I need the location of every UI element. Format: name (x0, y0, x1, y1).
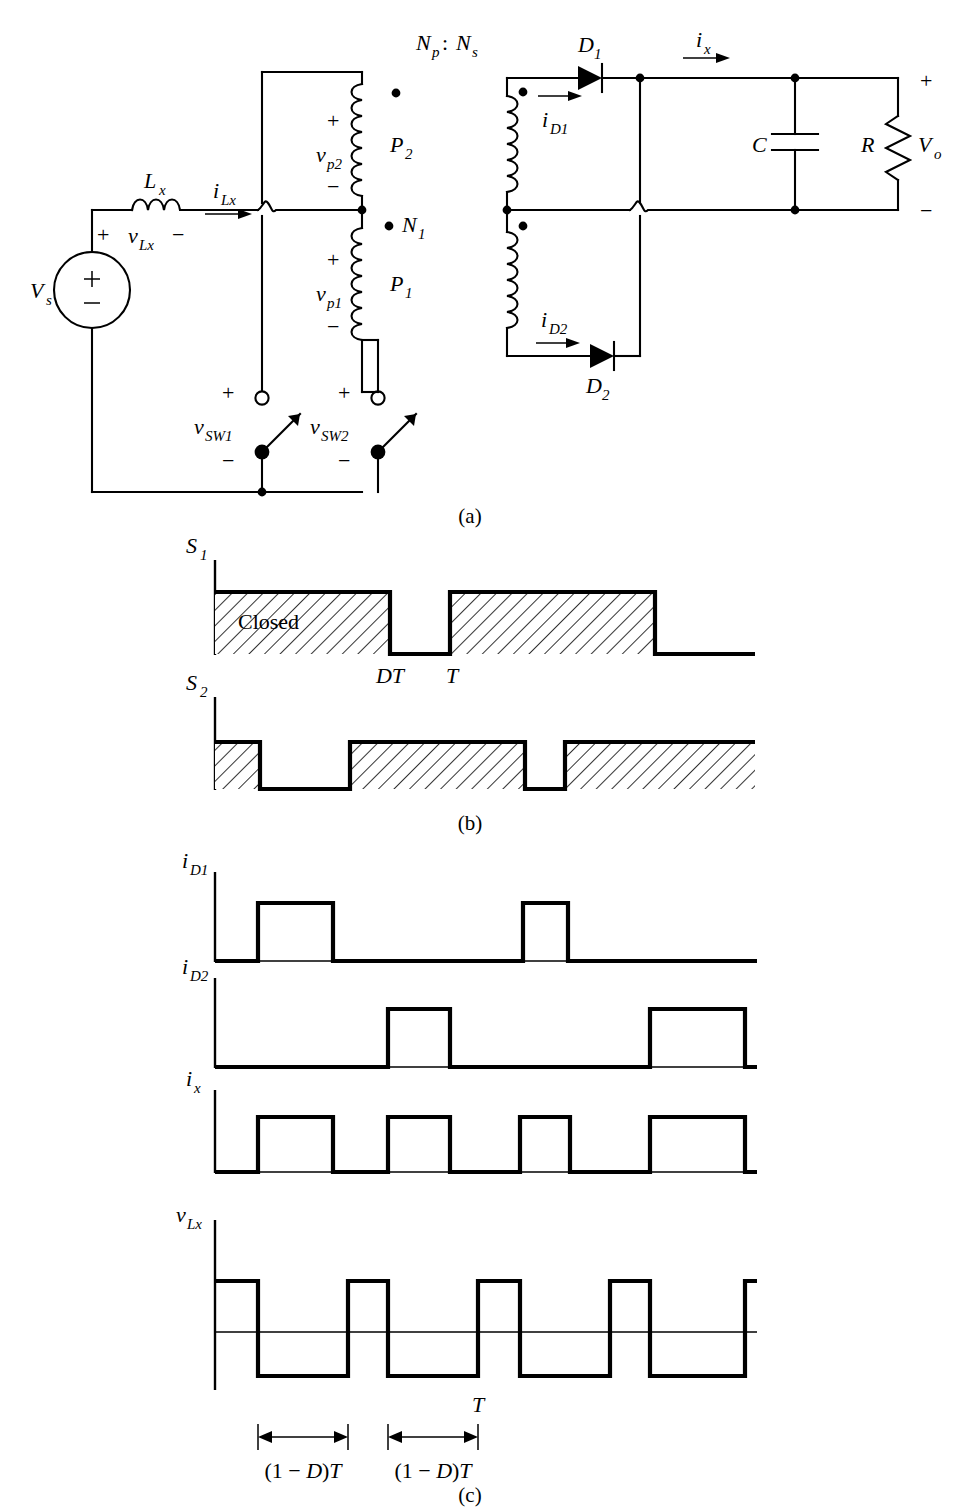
label-iD2-subscript: D2 (548, 321, 568, 337)
label-vp1-symbol: v (316, 281, 326, 306)
label-iD2-axis-subscript: D2 (189, 968, 209, 984)
label-vSW2-symbol: v (310, 414, 320, 439)
marker-T-vLx: T (472, 1392, 486, 1417)
label-P2-subscript: 2 (405, 146, 413, 162)
label-Lx-subscript: x (158, 182, 166, 198)
label-vSW1-plus: + (222, 380, 234, 405)
pulse-S1-2 (450, 592, 655, 654)
label-vp1-plus: + (327, 247, 339, 272)
label-C-symbol: C (752, 132, 767, 157)
label-R-symbol: R (860, 132, 875, 157)
label-D1-symbol: D (577, 32, 594, 57)
label-vp2-plus: + (327, 108, 339, 133)
label-ix-axis-subscript: x (193, 1080, 201, 1096)
label-vSW1-symbol: v (194, 414, 204, 439)
label-P1-subscript: 1 (405, 285, 413, 301)
panel-label-b: (b) (458, 811, 483, 835)
label-iLx-symbol: i (213, 178, 219, 203)
dot-polarity-P2 (392, 89, 401, 98)
label-iLx-subscript: Lx (220, 192, 236, 208)
label-vSW1-subscript: SW1 (205, 428, 233, 444)
marker-T-S1: T (446, 663, 460, 688)
figure-root: V s L x i Lx + v Lx − N p : N s + (0, 0, 971, 1511)
label-Ns-symbol: N (455, 30, 472, 55)
label-vp2-symbol: v (316, 142, 326, 167)
label-vLx-symbol: v (128, 223, 138, 248)
label-vSW1-minus: − (222, 448, 234, 473)
label-P2-symbol: P (389, 132, 403, 157)
label-S1-subscript: 1 (200, 547, 208, 563)
label-vSW2-minus: − (338, 448, 350, 473)
node-bottom-rail (258, 488, 267, 497)
label-vLx-axis-symbol: v (176, 1202, 186, 1227)
label-Np-symbol: N (415, 30, 432, 55)
label-D2-symbol: D (585, 373, 602, 398)
node-center-tap (358, 206, 367, 215)
label-vLx-subscript: Lx (138, 237, 154, 253)
label-vLx-minus: − (172, 222, 184, 247)
label-S1-symbol: S (186, 533, 197, 558)
dot-polarity-secondary-lower (519, 222, 528, 231)
annotation-closed: Closed (238, 609, 299, 634)
label-vp1-minus: − (327, 314, 339, 339)
label-Vo-plus: + (920, 68, 932, 93)
label-iD2-symbol: i (541, 307, 547, 332)
label-vp2-subscript: p2 (326, 156, 343, 172)
label-P1-symbol: P (389, 271, 403, 296)
label-S2-symbol: S (186, 670, 197, 695)
label-Vo-minus: − (920, 198, 932, 223)
label-ix-axis-symbol: i (186, 1066, 192, 1091)
label-turns-colon: : (442, 30, 448, 55)
label-Np-subscript: p (431, 44, 440, 60)
pulse-S2-3 (565, 742, 755, 789)
panel-label-a: (a) (458, 504, 481, 528)
dot-polarity-secondary-upper (519, 88, 528, 97)
label-Vo-subscript: o (934, 146, 942, 162)
label-vSW2-subscript: SW2 (321, 428, 349, 444)
label-iD1-axis-symbol: i (182, 848, 188, 873)
label-vp1-subscript: p1 (326, 295, 342, 311)
interval-bar-1-label: (1 − D)T (264, 1458, 343, 1483)
label-D2-subscript: 2 (602, 387, 610, 403)
label-ix-symbol: i (696, 27, 702, 52)
label-Ns-subscript: s (472, 44, 478, 60)
label-vSW2-plus: + (338, 380, 350, 405)
label-iD1-axis-subscript: D1 (189, 862, 208, 878)
pulse-S2-1 (215, 742, 260, 789)
circuit-figure: V s L x i Lx + v Lx − N p : N s + (0, 0, 971, 1511)
label-S2-subscript: 2 (200, 684, 208, 700)
interval-bar-2-label: (1 − D)T (394, 1458, 473, 1483)
label-vLx-axis-subscript: Lx (186, 1216, 202, 1232)
panel-label-c: (c) (458, 1483, 481, 1507)
label-D1-subscript: 1 (594, 46, 602, 62)
label-N1-symbol: N (401, 212, 418, 237)
label-iD1-symbol: i (542, 107, 548, 132)
pulse-S2-2 (350, 742, 525, 789)
label-iD1-subscript: D1 (549, 121, 568, 137)
label-Lx-symbol: L (143, 168, 156, 193)
label-ix-subscript: x (703, 41, 711, 57)
dot-polarity-N1 (385, 222, 394, 231)
marker-DT: DT (375, 663, 406, 688)
label-vLx-plus: + (97, 222, 109, 247)
label-N1-subscript: 1 (418, 226, 426, 242)
label-iD2-axis-symbol: i (182, 954, 188, 979)
label-vp2-minus: − (327, 174, 339, 199)
label-Vs-subscript: s (46, 292, 52, 308)
